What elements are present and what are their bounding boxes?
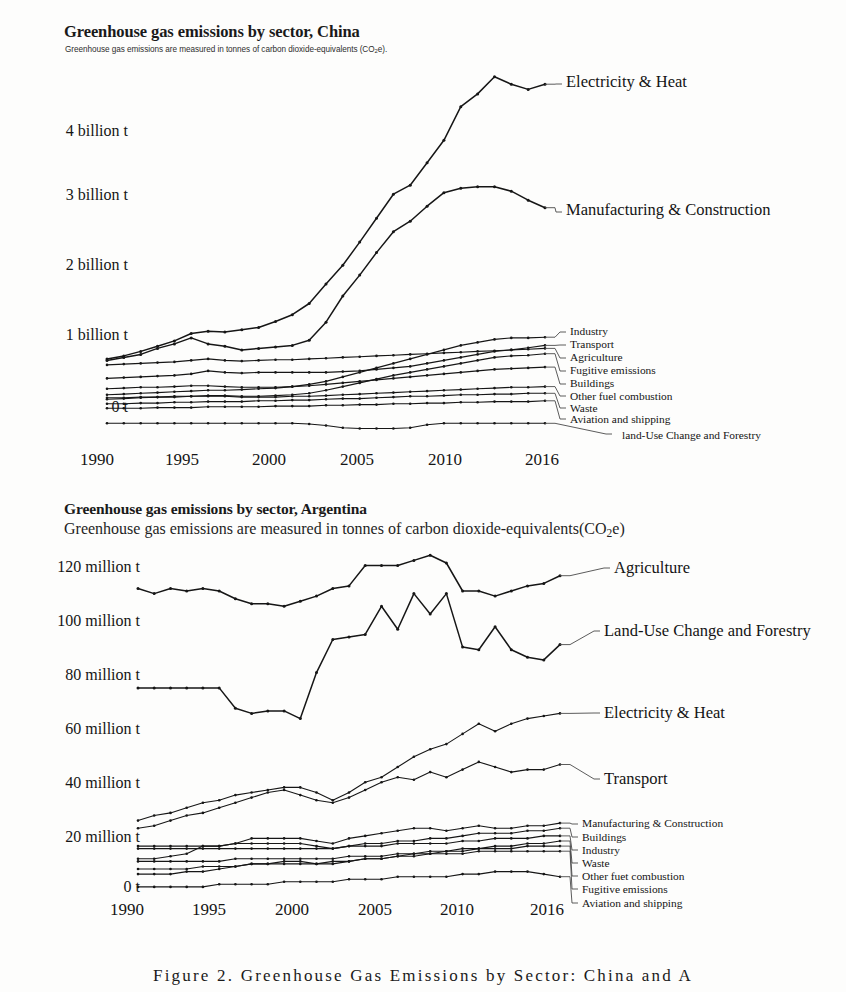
series-land-use-change-and-forestry bbox=[137, 592, 601, 720]
series-electricity-heat bbox=[137, 712, 600, 822]
series-buildings bbox=[106, 366, 566, 390]
china-label-buildings: Buildings bbox=[570, 378, 614, 389]
argentina-label-waste: Waste bbox=[582, 858, 610, 869]
argentina-label-electricity: Electricity & Heat bbox=[604, 705, 725, 722]
argentina-plot-area bbox=[0, 480, 846, 920]
argentina-label-fugitive: Fugitive emissions bbox=[582, 884, 668, 895]
series-manufacturing-construction bbox=[106, 185, 563, 362]
argentina-label-transport: Transport bbox=[604, 771, 668, 788]
china-label-electricity-heat: Electricity & Heat bbox=[566, 74, 687, 91]
china-label-industry: Industry bbox=[570, 326, 608, 337]
series-aviation-and-shipping bbox=[137, 870, 578, 903]
argentina-label-buildings: Buildings bbox=[582, 832, 626, 843]
argentina-label-manufacturing: Manufacturing & Construction bbox=[582, 818, 723, 829]
chart-china: Greenhouse gas emissions by sector, Chin… bbox=[0, 0, 846, 480]
series-land-use-change-and-forestry bbox=[106, 422, 612, 434]
argentina-label-other-fuel: Other fuet combustion bbox=[582, 871, 685, 882]
china-label-transport: Transport bbox=[570, 339, 614, 350]
chart-argentina: Greenhouse gas emissions by sector, Arge… bbox=[0, 480, 846, 920]
china-label-aviation: Aviation and shipping bbox=[570, 414, 670, 425]
argentina-label-aviation: Aviation and shipping bbox=[582, 898, 682, 909]
series-electricity-heat bbox=[106, 75, 563, 360]
figure-caption: Figure 2. Greenhouse Gas Emissions by Se… bbox=[0, 966, 846, 992]
china-label-other-fuel: Other fuel combustion bbox=[570, 391, 673, 402]
china-label-agriculture: Agriculture bbox=[570, 352, 623, 363]
argentina-label-agriculture: Agriculture bbox=[614, 560, 690, 577]
series-agriculture bbox=[137, 554, 611, 608]
china-label-lucf: land-Use Change and Forestry bbox=[622, 430, 761, 441]
china-plot-area bbox=[0, 0, 846, 480]
series-manufacturing-construction bbox=[137, 822, 578, 860]
china-label-fugitive: Fugitive emissions bbox=[570, 365, 656, 376]
series-transport bbox=[137, 761, 600, 830]
argentina-label-industry: Industry bbox=[582, 845, 620, 856]
argentina-label-lucf: Land-Use Change and Forestry bbox=[604, 623, 811, 640]
china-label-manufacturing: Manufacturing & Construction bbox=[566, 202, 770, 219]
